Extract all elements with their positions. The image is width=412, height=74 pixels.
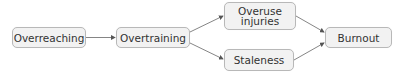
edge-staleness-burnout (294, 43, 324, 60)
node-burnout: Burnout (325, 27, 392, 48)
node-label: Staleness (234, 55, 285, 65)
node-overuse-injuries: Overuse injuries (224, 2, 296, 30)
edge-overtraining-overuse-injuries (190, 16, 223, 32)
node-staleness: Staleness (224, 49, 294, 71)
edge-overuse-injuries-burnout (296, 16, 324, 32)
node-label: Burnout (338, 33, 380, 43)
node-overreaching: Overreaching (12, 27, 86, 48)
node-label: Overtraining (120, 33, 186, 43)
edge-overtraining-staleness (190, 43, 223, 59)
node-label: Overreaching (14, 33, 85, 43)
node-label: Overuse injuries (238, 6, 282, 26)
node-overtraining: Overtraining (116, 27, 190, 48)
